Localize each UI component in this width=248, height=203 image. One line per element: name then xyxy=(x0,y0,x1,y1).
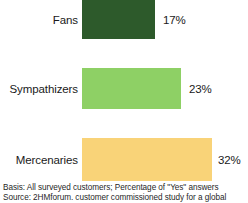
bar-chart: Fans 17% Sympathizers 23% Mercenaries 32… xyxy=(0,0,248,182)
bar-value-label-sympathizers: 23% xyxy=(189,83,212,95)
bar-value-label-fans: 17% xyxy=(163,14,186,26)
bar-track: 23% xyxy=(82,68,248,109)
bar-category-label-sympathizers: Sympathizers xyxy=(0,83,82,95)
bar-row: Mercenaries 32% xyxy=(0,138,248,181)
bar-row: Fans 17% xyxy=(0,0,248,39)
bar-mercenaries xyxy=(82,138,212,181)
bar-track: 32% xyxy=(82,138,248,181)
bar-category-label-fans: Fans xyxy=(0,14,82,26)
bar-sympathizers xyxy=(82,68,181,109)
bar-row: Sympathizers 23% xyxy=(0,68,248,109)
chart-footnote: Basis: All surveyed customers; Percentag… xyxy=(3,183,248,202)
bar-fans xyxy=(82,0,155,39)
footnote-basis-line: Basis: All surveyed customers; Percentag… xyxy=(3,183,248,193)
bar-category-label-mercenaries: Mercenaries xyxy=(0,154,82,166)
bar-value-label-mercenaries: 32% xyxy=(218,154,241,166)
bar-track: 17% xyxy=(82,0,248,39)
footnote-source-line: Source: 2HMforum. customer commissioned … xyxy=(3,193,248,203)
